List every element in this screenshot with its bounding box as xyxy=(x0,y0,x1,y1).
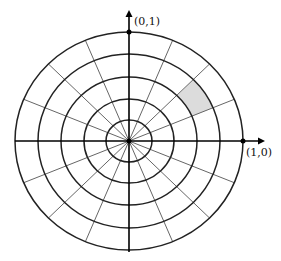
label-1-0: (1,0) xyxy=(246,146,272,159)
point-0-1 xyxy=(127,30,132,35)
y-axis-arrow-icon xyxy=(126,10,133,17)
x-axis-arrow-icon xyxy=(258,138,265,145)
point-1-0 xyxy=(241,139,246,144)
spoke-line xyxy=(48,141,129,218)
spoke-line xyxy=(129,141,210,218)
label-0-1: (0,1) xyxy=(134,15,160,28)
spoke-line xyxy=(48,64,129,141)
polar-grid-diagram: (0,1) (1,0) xyxy=(0,0,281,261)
center-point xyxy=(127,139,132,144)
